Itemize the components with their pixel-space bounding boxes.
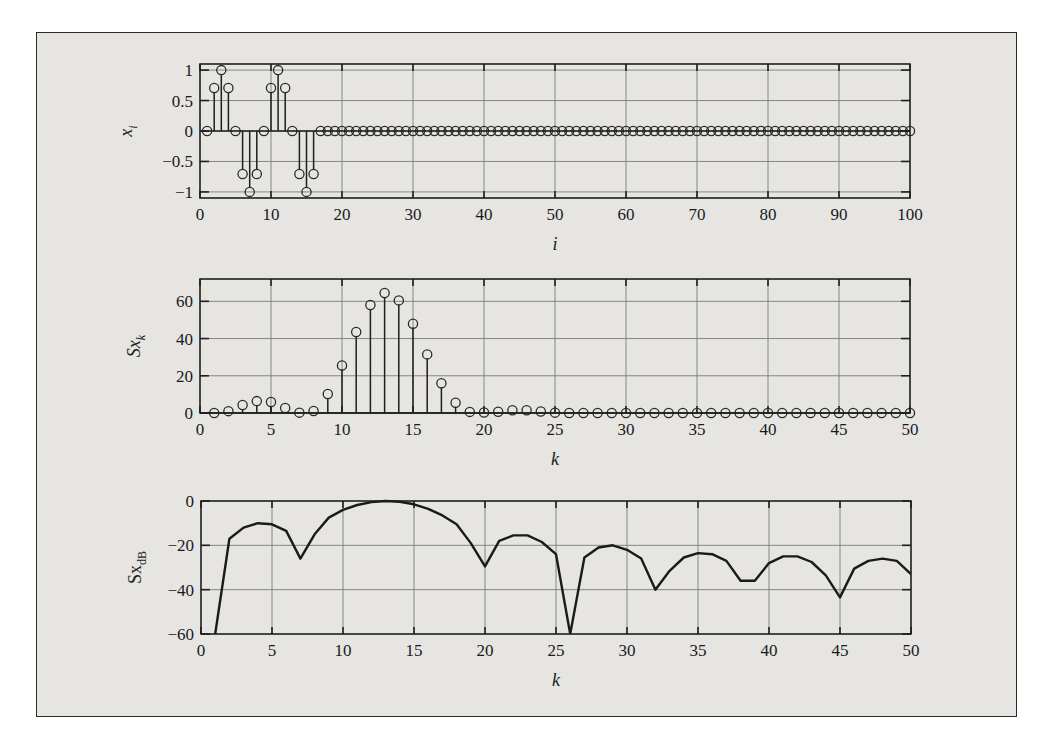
y-tick-label: 0.5 [172,92,193,111]
y-axis-label: SxdB [125,551,149,584]
x-tick-label: 30 [618,420,635,439]
stem-marker [309,169,318,178]
x-tick-label: 45 [831,420,848,439]
x-tick-label: 35 [689,420,706,439]
x-tick-label: 20 [334,205,351,224]
stem-marker [380,288,389,297]
x-tick-label: 5 [268,641,277,660]
spectrum-db-curve [215,501,911,634]
stem-marker [281,403,290,412]
stem-marker [252,169,261,178]
x-axis-label: k [551,449,560,469]
stem-marker [437,379,446,388]
stem-marker [295,169,304,178]
x-tick-label: 20 [476,420,493,439]
x-tick-label: 50 [902,420,919,439]
x-tick-label: 60 [618,205,635,224]
stem-marker [536,407,545,416]
x-tick-label: 15 [405,420,422,439]
stem-marker [366,300,375,309]
y-tick-label: −20 [167,536,194,555]
x-tick-label: 50 [903,641,920,660]
y-tick-label: −40 [167,581,194,600]
x-axis-label: i [552,234,557,254]
stem-marker [423,350,432,359]
stem-marker [238,400,247,409]
y-tick-label: −0.5 [162,152,193,171]
x-tick-label: 90 [831,205,848,224]
stem-marker [352,327,361,336]
x-tick-label: 30 [405,205,422,224]
x-tick-label: 40 [476,205,493,224]
power-spectrum-stem-plot: 051015202530354045500204060kSxk [124,279,919,469]
x-tick-label: 10 [334,420,351,439]
stem-marker [465,407,474,416]
x-tick-label: 5 [267,420,276,439]
x-tick-label: 20 [477,641,494,660]
stem-marker [252,396,261,405]
y-tick-label: 20 [176,367,193,386]
y-tick-label: −60 [167,625,194,644]
x-tick-label: 35 [690,641,707,660]
stem-marker [224,407,233,416]
x-tick-label: 70 [689,205,706,224]
x-tick-label: 0 [197,641,206,660]
x-tick-label: 25 [548,641,565,660]
stem-marker [494,407,503,416]
power-spectrum-db-line-plot: 05101520253035404550−60−40−200kSxdB [125,492,920,690]
x-tick-label: 45 [832,641,849,660]
x-tick-label: 100 [897,205,923,224]
stem-marker [224,83,233,92]
x-tick-label: 10 [263,205,280,224]
stem-marker [210,83,219,92]
y-axis-label: xi [116,125,140,137]
stem-marker [323,389,332,398]
x-tick-label: 15 [406,641,423,660]
stem-marker [394,296,403,305]
y-tick-label: 1 [185,61,194,80]
y-tick-label: 40 [176,330,193,349]
x-tick-label: 30 [619,641,636,660]
x-tick-label: 10 [335,641,352,660]
x-tick-label: 0 [196,420,205,439]
x-tick-label: 40 [761,641,778,660]
y-tick-label: 0 [186,492,195,511]
stem-marker [281,83,290,92]
y-tick-label: 0 [185,404,194,423]
stem-marker [309,406,318,415]
x-tick-label: 50 [547,205,564,224]
figure-plots: 0102030405060708090100−1−0.500.51ixi 051… [0,0,1044,741]
stem-marker [451,398,460,407]
x-tick-label: 80 [760,205,777,224]
x-tick-label: 0 [196,205,205,224]
y-axis-label: Sxk [124,334,148,357]
y-tick-label: 0 [185,122,194,141]
stem-marker [238,169,247,178]
y-tick-label: −1 [175,183,193,202]
x-axis-label: k [552,670,561,690]
x-tick-label: 40 [760,420,777,439]
y-tick-label: 60 [176,292,193,311]
time-signal-stem-plot: 0102030405060708090100−1−0.500.51ixi [116,61,923,254]
x-tick-label: 25 [547,420,564,439]
